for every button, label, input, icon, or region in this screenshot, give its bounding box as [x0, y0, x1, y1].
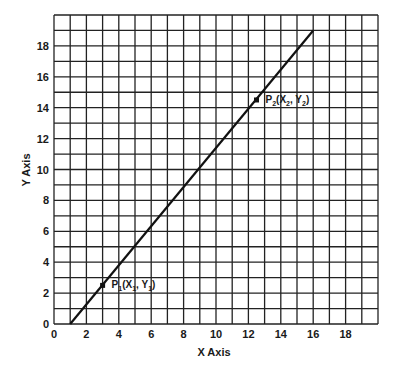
y-tick-label: 16	[37, 71, 49, 83]
point-p2-label: P2(X2, Y2)	[266, 94, 310, 107]
point-p1-label: P1(X1, Y1)	[112, 279, 156, 292]
point-p2-marker	[254, 97, 259, 102]
x-tick-label: 10	[210, 328, 222, 340]
linear-graph: 024681012141618 024681012141618 P1(X1, Y…	[0, 0, 398, 375]
y-tick-label: 12	[37, 133, 49, 145]
y-tick-label: 18	[37, 40, 49, 52]
y-axis-label: Y Axis	[20, 153, 32, 186]
x-tick-label: 2	[83, 328, 89, 340]
y-tick-label: 8	[43, 194, 49, 206]
x-tick-label: 14	[275, 328, 288, 340]
y-tick-label: 4	[43, 256, 50, 268]
x-tick-label: 0	[51, 328, 57, 340]
y-tick-label: 14	[37, 102, 50, 114]
x-tick-label: 16	[307, 328, 319, 340]
x-axis-ticks: 024681012141618	[51, 328, 352, 340]
y-axis-ticks: 024681012141618	[37, 40, 50, 330]
x-tick-label: 8	[181, 328, 187, 340]
x-tick-label: 12	[242, 328, 254, 340]
grid	[54, 15, 378, 324]
data-line	[70, 30, 313, 324]
point-p1-marker	[100, 283, 105, 288]
y-tick-label: 6	[43, 225, 49, 237]
x-tick-label: 6	[148, 328, 154, 340]
x-tick-label: 18	[339, 328, 351, 340]
y-tick-label: 2	[43, 287, 49, 299]
x-tick-label: 4	[116, 328, 123, 340]
x-axis-label: X Axis	[197, 346, 230, 358]
y-tick-label: 0	[43, 318, 49, 330]
y-tick-label: 10	[37, 164, 49, 176]
